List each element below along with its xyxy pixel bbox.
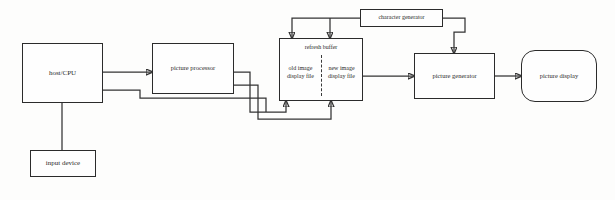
new-image-line-2: display file	[328, 73, 355, 79]
refresh-buffer-old-image-cell: old image display file	[282, 65, 318, 81]
old-image-line-2: display file	[287, 73, 314, 79]
node-picture-generator-label: picture generator	[432, 72, 476, 80]
node-input-device-label: input device	[46, 159, 80, 168]
node-picture-display[interactable]: picture display	[521, 50, 597, 102]
node-host-cpu-label: host/CPU	[49, 69, 76, 78]
refresh-buffer-title: refresh buffer	[280, 44, 362, 52]
edge-chargen-to-picture-generator	[443, 18, 465, 53]
node-picture-processor[interactable]: picture processor	[152, 43, 234, 94]
old-image-line-1: old image	[289, 65, 313, 71]
node-input-device[interactable]: input device	[30, 150, 96, 177]
refresh-buffer-new-image-cell: new image display file	[323, 65, 359, 81]
new-image-line-1: new image	[328, 65, 354, 71]
refresh-buffer-divider	[321, 55, 322, 96]
node-picture-generator[interactable]: picture generator	[414, 53, 495, 99]
diagram-canvas: host/CPU input device picture processor …	[0, 0, 615, 200]
node-host-cpu[interactable]: host/CPU	[22, 43, 103, 103]
node-refresh-buffer[interactable]: refresh buffer old image display file ne…	[279, 38, 363, 101]
edge-chargen-bus-left	[292, 18, 360, 38]
node-character-generator[interactable]: character generator	[360, 9, 443, 27]
node-picture-display-label: picture display	[540, 72, 578, 80]
node-character-generator-label: character generator	[378, 14, 424, 22]
node-picture-processor-label: picture processor	[171, 64, 216, 72]
